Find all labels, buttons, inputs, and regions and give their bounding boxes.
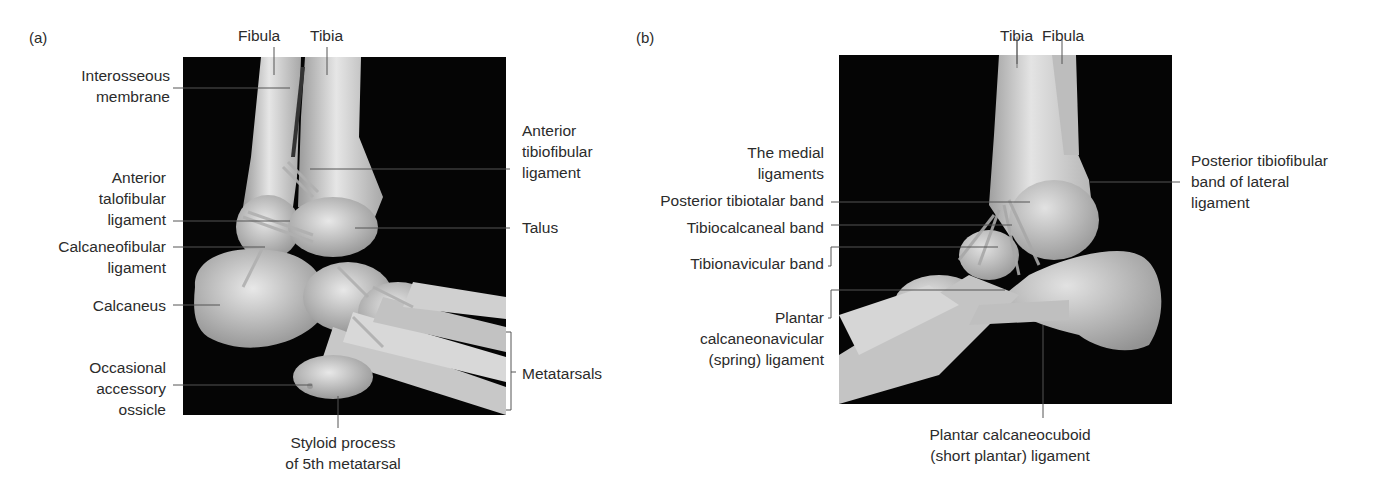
- label-tibia-b: Tibia: [1000, 25, 1033, 46]
- medial-ankle-illustration: [839, 55, 1172, 404]
- label-line: ligament: [40, 209, 166, 230]
- label-line: of 5th metatarsal: [268, 453, 418, 474]
- label-calcaneofibular-ligament: Calcaneofibular ligament: [20, 236, 166, 278]
- label-tibionavicular-band: Tibionavicular band: [620, 253, 824, 274]
- label-line: ligaments: [640, 163, 824, 184]
- label-plantar-calcaneonavicular-ligament: Plantar calcaneonavicular (spring) ligam…: [640, 307, 824, 370]
- label-posterior-tibiotalar-band: Posterior tibiotalar band: [620, 190, 824, 211]
- label-calcaneus: Calcaneus: [40, 295, 166, 316]
- label-line: Occasional: [40, 357, 166, 378]
- label-fibula-a: Fibula: [238, 25, 280, 46]
- label-line: (short plantar) ligament: [920, 445, 1100, 466]
- label-line: The medial: [640, 142, 824, 163]
- label-line: accessory: [40, 378, 166, 399]
- panel-a-letter: (a): [29, 29, 47, 46]
- panel-a-photo: [183, 57, 506, 415]
- label-medial-ligaments: The medial ligaments: [640, 142, 824, 184]
- label-line: Plantar calcaneocuboid: [920, 424, 1100, 445]
- label-interosseous-membrane: Interosseous membrane: [40, 65, 170, 107]
- label-line: (spring) ligament: [640, 349, 824, 370]
- panel-b-letter: (b): [636, 29, 654, 46]
- panel-b-photo: [839, 55, 1172, 404]
- label-line: ligament: [20, 257, 166, 278]
- label-line: calcaneonavicular: [640, 328, 824, 349]
- label-fibula-b: Fibula: [1042, 25, 1084, 46]
- label-line: Posterior tibiofibular: [1191, 150, 1328, 171]
- label-anterior-tibiofibular-ligament: Anterior tibiofibular ligament: [522, 120, 593, 183]
- label-styloid-process: Styloid process of 5th metatarsal: [268, 432, 418, 474]
- label-line: ligament: [522, 162, 593, 183]
- label-line: Anterior: [522, 120, 593, 141]
- label-line: Interosseous: [40, 65, 170, 86]
- label-tibiocalcaneal-band: Tibiocalcaneal band: [620, 217, 824, 238]
- label-line: membrane: [40, 86, 170, 107]
- label-line: ossicle: [40, 399, 166, 420]
- label-line: Styloid process: [268, 432, 418, 453]
- label-tibia-a: Tibia: [310, 25, 343, 46]
- label-talus: Talus: [522, 217, 558, 238]
- label-line: talofibular: [40, 188, 166, 209]
- label-line: Anterior: [40, 167, 166, 188]
- label-metatarsals: Metatarsals: [522, 363, 602, 384]
- label-line: Calcaneofibular: [20, 236, 166, 257]
- label-line: band of lateral: [1191, 171, 1328, 192]
- label-line: Plantar: [640, 307, 824, 328]
- ankle-ligaments-figure: (a): [0, 0, 1383, 498]
- label-anterior-talofibular-ligament: Anterior talofibular ligament: [40, 167, 166, 230]
- label-occasional-accessory-ossicle: Occasional accessory ossicle: [40, 357, 166, 420]
- label-line: tibiofibular: [522, 141, 593, 162]
- label-posterior-tibiofibular-band: Posterior tibiofibular band of lateral l…: [1191, 150, 1328, 213]
- lateral-ankle-illustration: [183, 57, 506, 415]
- label-plantar-calcaneocuboid-ligament: Plantar calcaneocuboid (short plantar) l…: [920, 424, 1100, 466]
- label-line: ligament: [1191, 192, 1328, 213]
